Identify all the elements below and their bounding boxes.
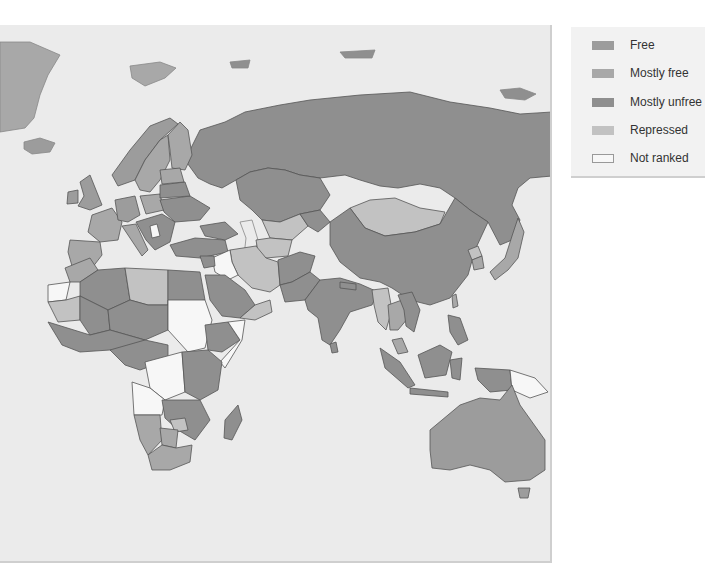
legend-label: Mostly free (630, 66, 689, 80)
swatch-repressed (592, 126, 614, 135)
region-germany (115, 196, 140, 222)
region-australia (430, 385, 545, 482)
map-svg (0, 25, 552, 563)
swatch-free (592, 41, 614, 50)
legend-item-mostly-unfree: Mostly unfree (592, 94, 702, 110)
region-svalbard (130, 62, 176, 86)
region-belarus (160, 182, 190, 198)
legend-label: Not ranked (630, 151, 689, 165)
region-sulawesi (450, 358, 462, 380)
legend-label: Free (630, 38, 655, 52)
map-legend: Free Mostly free Mostly unfree Repressed… (571, 27, 705, 178)
legend-item-not-ranked: Not ranked (592, 150, 689, 166)
region-libya (125, 268, 168, 305)
region-malaysia (392, 338, 408, 354)
region-sri-lanka (330, 342, 338, 353)
region-east-africa (182, 350, 222, 400)
region-iceland (24, 138, 55, 154)
legend-item-mostly-free: Mostly free (592, 65, 689, 81)
region-philippines (448, 315, 468, 345)
region-baltics (160, 168, 184, 184)
region-ireland (67, 190, 78, 204)
world-map (0, 25, 552, 563)
swatch-not-ranked (592, 154, 614, 163)
region-sumatra (380, 348, 415, 388)
region-western-sahara (48, 282, 70, 302)
legend-label: Repressed (630, 123, 688, 137)
region-new-guinea-west (475, 368, 512, 392)
region-tasmania (518, 488, 530, 498)
swatch-mostly-free (592, 69, 614, 78)
region-south-africa (148, 445, 192, 470)
swatch-mostly-unfree (592, 98, 614, 107)
legend-item-repressed: Repressed (592, 122, 688, 138)
legend-item-free: Free (592, 37, 655, 53)
region-java (410, 388, 448, 397)
region-madagascar (224, 405, 242, 440)
region-greenland (0, 42, 60, 132)
legend-label: Mostly unfree (630, 95, 702, 109)
region-uk (78, 175, 102, 210)
region-taiwan (452, 294, 458, 308)
region-syria (200, 256, 215, 268)
region-borneo (418, 345, 452, 378)
